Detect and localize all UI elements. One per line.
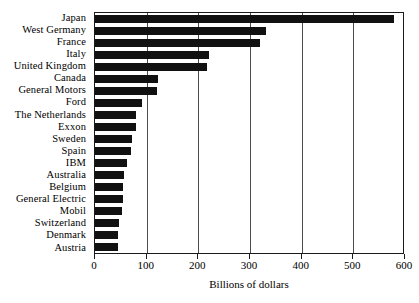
x-axis-tick-labels: 0100200300400500600 [94, 260, 404, 276]
bar [95, 39, 260, 47]
category-label: IBM [0, 157, 90, 169]
bar [95, 171, 124, 179]
bar [95, 111, 136, 119]
bar-row [95, 229, 403, 241]
category-label: Japan [0, 12, 90, 24]
category-label: Belgium [0, 181, 90, 193]
bar [95, 195, 123, 203]
bar-chart: Japan West Germany France Italy United K… [0, 0, 419, 303]
bar [95, 27, 266, 35]
bar-row [95, 145, 403, 157]
category-label: General Motors [0, 85, 90, 97]
bar [95, 231, 118, 239]
plot-area [94, 12, 404, 254]
bar [95, 147, 131, 155]
x-axis-tick-label: 500 [344, 260, 361, 271]
x-axis-tick-label: 0 [91, 260, 97, 271]
bar [95, 243, 118, 251]
bar-row [95, 109, 403, 121]
category-label: Canada [0, 72, 90, 84]
bar [95, 183, 123, 191]
category-label: Spain [0, 145, 90, 157]
category-axis-labels: Japan West Germany France Italy United K… [0, 12, 90, 254]
bar [95, 135, 132, 143]
x-axis-title: Billions of dollars [94, 279, 404, 290]
bar-row [95, 193, 403, 205]
bar [95, 75, 158, 83]
bar [95, 15, 394, 23]
bar-row [95, 217, 403, 229]
bar [95, 87, 157, 95]
category-label: Australia [0, 169, 90, 181]
bar [95, 207, 122, 215]
bar-row [95, 25, 403, 37]
bar-row [95, 169, 403, 181]
bar [95, 99, 142, 107]
category-label: Mobil [0, 206, 90, 218]
x-axis-tick-label: 400 [292, 260, 309, 271]
bar-row [95, 37, 403, 49]
category-label: Switzerland [0, 218, 90, 230]
category-label: United Kingdom [0, 60, 90, 72]
bar [95, 51, 209, 59]
bars-layer [95, 13, 403, 253]
x-axis-tick-label: 300 [241, 260, 258, 271]
bar-row [95, 133, 403, 145]
x-axis-tick-label: 100 [137, 260, 154, 271]
bar-row [95, 181, 403, 193]
bar-row [95, 49, 403, 61]
bar-row [95, 205, 403, 217]
category-label: France [0, 36, 90, 48]
bar-row [95, 97, 403, 109]
category-label: Austria [0, 242, 90, 254]
category-label: Italy [0, 48, 90, 60]
category-label: Sweden [0, 133, 90, 145]
x-axis-tick-label: 200 [189, 260, 206, 271]
bar [95, 123, 136, 131]
category-label: Exxon [0, 121, 90, 133]
bar-row [95, 13, 403, 25]
category-label: General Electric [0, 193, 90, 205]
x-axis-tick-label: 600 [396, 260, 413, 271]
category-label: Denmark [0, 230, 90, 242]
bar-row [95, 85, 403, 97]
bar-row [95, 61, 403, 73]
bar-row [95, 157, 403, 169]
bar [95, 219, 119, 227]
bar-row [95, 241, 403, 253]
bar-row [95, 121, 403, 133]
bar [95, 159, 127, 167]
category-label: West Germany [0, 24, 90, 36]
category-label: The Netherlands [0, 109, 90, 121]
bar-row [95, 73, 403, 85]
category-label: Ford [0, 97, 90, 109]
bar [95, 63, 207, 71]
